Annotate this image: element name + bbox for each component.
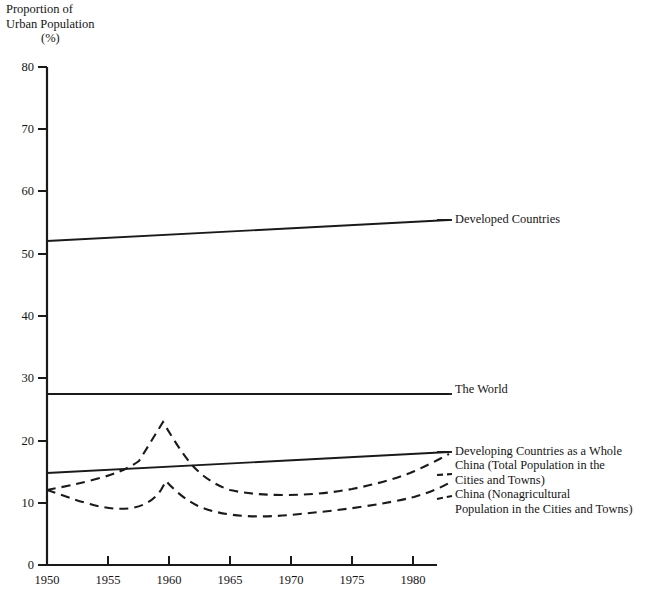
series-line-china-nonagricultural	[47, 481, 449, 516]
x-axis-ticks	[47, 556, 413, 565]
plot-area	[0, 0, 659, 602]
axis-lines	[47, 67, 437, 565]
series-line-developed-countries	[47, 220, 449, 241]
series-line-china-total-population	[47, 422, 449, 495]
series-line-developing-countries	[47, 452, 449, 473]
legend-markers	[437, 220, 452, 499]
figure-urban-population-chart: Proportion of Urban Population (%) 80 70…	[0, 0, 659, 602]
legend-marker-china-nonagricultural	[437, 496, 452, 499]
legend-marker-china-total-population	[437, 474, 452, 475]
y-axis-ticks	[38, 67, 47, 565]
